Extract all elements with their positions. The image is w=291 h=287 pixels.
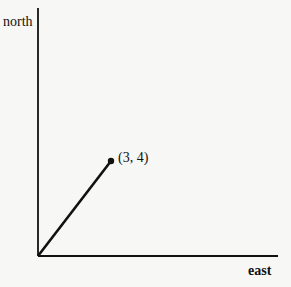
vector-endpoint — [108, 158, 114, 164]
x-axis-label: east — [248, 264, 271, 278]
diagram-graphics — [0, 0, 291, 287]
endpoint-label: (3, 4) — [118, 151, 148, 165]
vector-arrow — [38, 161, 111, 256]
y-axis-label: north — [3, 15, 33, 29]
vector-diagram: north (3, 4) east — [0, 0, 291, 287]
